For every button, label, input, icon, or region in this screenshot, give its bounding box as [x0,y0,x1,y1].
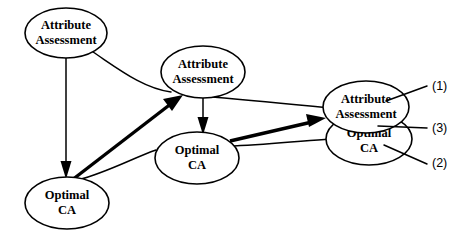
edge-line [72,103,172,180]
node-label-line1: Optimal [45,188,90,202]
node-label-line2: Assessment [172,72,234,86]
node-attribute-assessment-3[interactable]: Attribute Assessment [323,81,409,133]
edge-attribute-assessment-1-to-attribute-assessment-2 [93,52,171,92]
node-label-line1: Attribute [41,18,91,32]
node-optimal-ca-1[interactable]: Optimal CA [25,177,109,229]
edge-line [234,139,330,146]
callout-label: (1) [432,79,447,93]
edge-attribute-assessment-2-to-optimal-ca-2 [198,98,209,135]
edge-attribute-assessment-2-to-attribute-assessment-3 [212,97,330,108]
node-label-line1: Attribute [178,57,228,71]
callout-label: (2) [432,156,447,170]
edge-line [230,122,312,141]
node-label-line2: CA [58,203,76,217]
node-label-line2: Assessment [335,107,397,121]
edge-optimal-ca-2-to-optimal-ca-3 [234,139,330,146]
node-label-line2: CA [188,158,206,172]
node-label-line2: Assessment [35,33,97,47]
node-label-line1: Optimal [175,143,220,157]
edge-line [212,97,330,108]
node-attribute-assessment-1[interactable]: Attribute Assessment [25,8,107,58]
node-attribute-assessment-2[interactable]: Attribute Assessment [161,46,245,98]
diagram-canvas: Attribute Assessment Optimal CA Attribut… [0,0,467,242]
edge-line [93,52,171,92]
node-link-diagram: Attribute Assessment Optimal CA Attribut… [0,0,467,242]
edge-attribute-assessment-1-to-optimal-ca-1 [61,58,72,179]
callout-label: (3) [432,121,447,135]
node-label-line1: Attribute [341,92,391,106]
node-optimal-ca-2[interactable]: Optimal CA [155,132,239,184]
arrowhead-icon [306,114,326,127]
node-label-line2: CA [360,141,378,155]
edge-optimal-ca-2-to-attribute-assessment-3 [230,114,326,141]
